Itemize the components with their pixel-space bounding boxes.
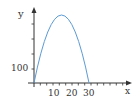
y-axis-arrow-icon	[32, 7, 37, 13]
x-axis-label: x	[125, 87, 130, 96]
x-axis-arrow-icon	[126, 81, 132, 86]
parabola-curve	[34, 15, 89, 83]
y-tick-label-100: 100	[11, 64, 28, 73]
x-tick-label-20: 20	[66, 89, 77, 98]
x-tick-label-10: 10	[48, 89, 59, 98]
y-axis-label: y	[18, 9, 24, 19]
x-tick-label-30: 30	[83, 89, 94, 98]
